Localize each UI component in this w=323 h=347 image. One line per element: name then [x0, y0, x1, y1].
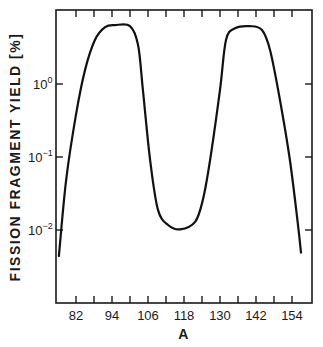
x-tick-label: 94: [105, 308, 119, 323]
x-tick-label: 106: [137, 308, 159, 323]
y-tick-label-1e0: 100: [33, 75, 52, 92]
fission-yield-chart: 82 94 106 118 130 142 154 100 10−1 10−2 …: [0, 0, 323, 347]
x-axis-tick-labels: 82 94 106 118 130 142 154: [69, 308, 303, 323]
x-tick-label: 130: [209, 308, 231, 323]
y-tick-label-1e-2: 10−2: [28, 221, 53, 238]
x-tick-label: 82: [69, 308, 83, 323]
x-axis-ticks: [76, 10, 292, 303]
yield-curve: [59, 24, 301, 256]
x-tick-label: 154: [281, 308, 303, 323]
y-axis-ticks: [56, 84, 312, 230]
x-tick-label: 142: [245, 308, 267, 323]
y-axis-title: FISSION FRAGMENT YIELD [%]: [7, 33, 23, 282]
x-axis-title: A: [178, 326, 190, 342]
x-tick-label: 118: [174, 308, 195, 323]
y-tick-label-1e-1: 10−1: [28, 148, 53, 165]
y-axis-tick-labels: 100 10−1 10−2: [28, 75, 53, 238]
plot-frame: [56, 10, 312, 303]
